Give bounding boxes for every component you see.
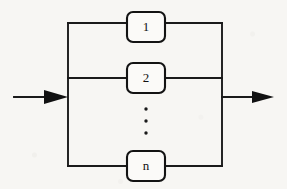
block-n[interactable]: n	[127, 151, 165, 181]
block-2-label: 2	[143, 70, 150, 85]
output-arrow	[222, 91, 274, 103]
block-2[interactable]: 2	[127, 63, 165, 93]
input-arrow	[14, 90, 68, 104]
ellipsis-dot-1	[144, 107, 147, 110]
vertical-ellipsis-icon	[144, 107, 147, 134]
parallel-block-diagram: 1 2 n	[0, 0, 287, 189]
input-arrow-head	[44, 90, 68, 104]
block-1[interactable]: 1	[127, 12, 165, 42]
block-n-label: n	[143, 158, 150, 173]
ellipsis-dot-2	[144, 119, 147, 122]
output-arrow-head	[252, 91, 274, 103]
ellipsis-dot-3	[144, 131, 147, 134]
diagram-canvas: 1 2 n	[0, 0, 287, 189]
block-1-label: 1	[143, 19, 150, 34]
